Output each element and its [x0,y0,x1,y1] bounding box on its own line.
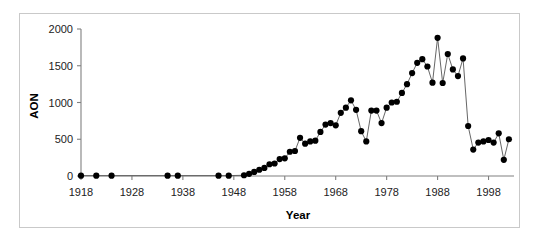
data-point [414,60,420,66]
x-tick-label: 1998 [476,186,500,198]
x-tick-label: 1958 [273,186,297,198]
data-point [358,128,364,134]
data-point [333,122,339,128]
x-tick-label: 1918 [69,186,93,198]
data-point [491,139,497,145]
x-axis-ticks: 191819281938194819581968197819881998 [69,176,501,198]
chart-canvas: 0500100015002000 19181928193819481958196… [20,14,519,227]
data-point [226,173,232,179]
data-point [460,55,466,61]
data-point [78,173,84,179]
data-point [353,107,359,113]
data-point [338,110,344,116]
data-point [165,173,171,179]
data-point [175,173,181,179]
x-tick-label: 1968 [323,186,347,198]
y-tick-label: 0 [67,170,73,182]
y-tick-label: 2000 [49,23,73,35]
data-point [282,155,288,161]
y-tick-label: 1500 [49,60,73,72]
data-point [348,97,354,103]
data-point [409,70,415,76]
data-point [445,51,451,57]
data-point [429,80,435,86]
data-point [465,123,471,129]
data-point [419,56,425,62]
x-tick-label: 1938 [171,186,195,198]
data-point [373,107,379,113]
data-point [424,63,430,69]
data-point [317,129,323,135]
data-point [297,135,303,141]
y-tick-label: 500 [55,133,73,145]
data-point [475,139,481,145]
x-tick-label: 1928 [120,186,144,198]
data-point [440,80,446,86]
y-axis-ticks: 0500100015002000 [49,23,81,182]
data-point [404,81,410,87]
data-point [434,35,440,41]
x-axis-title: Year [286,209,311,221]
data-point [215,173,221,179]
data-point [312,138,318,144]
data-point [292,148,298,154]
data-point [384,105,390,111]
data-point [108,173,114,179]
data-point [496,130,502,136]
chart-frame: 0500100015002000 19181928193819481958196… [19,13,520,228]
data-point [450,66,456,72]
data-point [363,138,369,144]
data-point [343,105,349,111]
data-point [399,90,405,96]
data-point [378,120,384,126]
x-tick-label: 1978 [374,186,398,198]
y-tick-label: 1000 [49,97,73,109]
figure-container: 0500100015002000 19181928193819481958196… [0,0,541,245]
data-series-line [81,38,509,176]
data-point [394,99,400,105]
data-point [261,165,267,171]
y-axis-title: AON [28,93,40,119]
data-point [501,157,507,163]
x-tick-label: 1988 [425,186,449,198]
data-point [271,160,277,166]
x-tick-label: 1948 [222,186,246,198]
data-series-markers [78,35,512,179]
data-point [93,173,99,179]
data-point [455,73,461,79]
data-point [506,136,512,142]
data-point [470,146,476,152]
